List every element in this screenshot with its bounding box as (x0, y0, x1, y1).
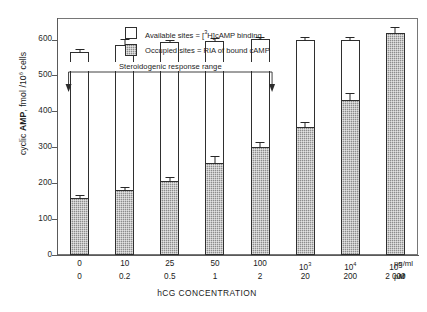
annotation-label-steroidogenic-range: Steroidogenic response range (69, 62, 273, 71)
figure-canvas: 0100200300400500600 cyclic AMP, fmol /10… (0, 0, 427, 312)
steroidogenic-range-bracket-icon (0, 0, 427, 312)
